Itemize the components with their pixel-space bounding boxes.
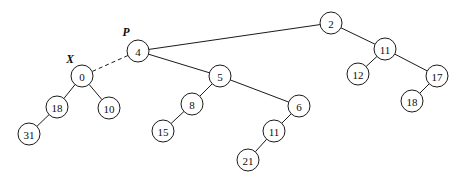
node-label: 12: [353, 69, 364, 81]
tree-node[interactable]: 18: [401, 90, 423, 112]
tree-edge: [230, 80, 288, 102]
tree-edge: [171, 112, 184, 124]
tree-svg-canvas: 24110512171810861831151121 PX: [0, 0, 467, 186]
node-label: 15: [158, 126, 170, 138]
tree-node[interactable]: 11: [374, 38, 396, 60]
tree-node[interactable]: 31: [18, 123, 40, 145]
tree-node[interactable]: 6: [288, 95, 310, 117]
tree-edge: [64, 85, 75, 99]
node-label: 6: [296, 101, 302, 113]
node-label: 21: [243, 155, 254, 167]
node-label: 31: [24, 129, 35, 141]
tree-node[interactable]: 10: [98, 97, 120, 119]
tree-node[interactable]: 15: [152, 120, 174, 142]
nodes-layer: 24110512171810861831151121: [18, 12, 448, 171]
pointer-label-x: X: [65, 53, 74, 65]
tree-node[interactable]: 17: [426, 65, 448, 87]
node-label: 10: [104, 103, 116, 115]
node-label: 0: [79, 71, 85, 83]
node-label: 2: [328, 18, 334, 30]
tree-node[interactable]: 5: [209, 65, 231, 87]
node-label: 11: [269, 126, 280, 138]
tree-edge: [255, 139, 266, 152]
pointer-label-p: P: [122, 26, 130, 38]
edges-layer: [37, 25, 429, 152]
tree-node[interactable]: 18: [46, 96, 68, 118]
tree-node[interactable]: 0: [71, 65, 93, 87]
tree-edge: [200, 84, 212, 96]
tree-edge: [395, 54, 427, 71]
tree-node[interactable]: 11: [263, 120, 285, 142]
tree-node[interactable]: 8: [181, 93, 203, 115]
tree-node[interactable]: 12: [347, 63, 369, 85]
tree-node[interactable]: 21: [237, 149, 259, 171]
node-label: 18: [407, 96, 419, 108]
node-label: 17: [432, 71, 444, 83]
tree-node[interactable]: 4: [127, 40, 149, 62]
tree-node[interactable]: 2: [320, 12, 342, 34]
tree-edge: [92, 55, 128, 71]
tree-edge: [282, 114, 291, 123]
tree-edge: [366, 56, 377, 66]
node-label: 5: [217, 71, 223, 83]
node-label: 11: [380, 44, 391, 56]
tree-edge: [420, 84, 429, 93]
node-label: 18: [52, 102, 64, 114]
tree-edge: [341, 28, 375, 44]
tree-edge: [89, 84, 102, 99]
node-label: 4: [135, 46, 141, 58]
node-label: 8: [189, 99, 195, 111]
tree-edge: [149, 25, 320, 50]
tree-edge: [149, 54, 210, 73]
tree-edge: [37, 115, 49, 127]
binary-tree-diagram: 24110512171810861831151121 PX: [0, 0, 467, 186]
